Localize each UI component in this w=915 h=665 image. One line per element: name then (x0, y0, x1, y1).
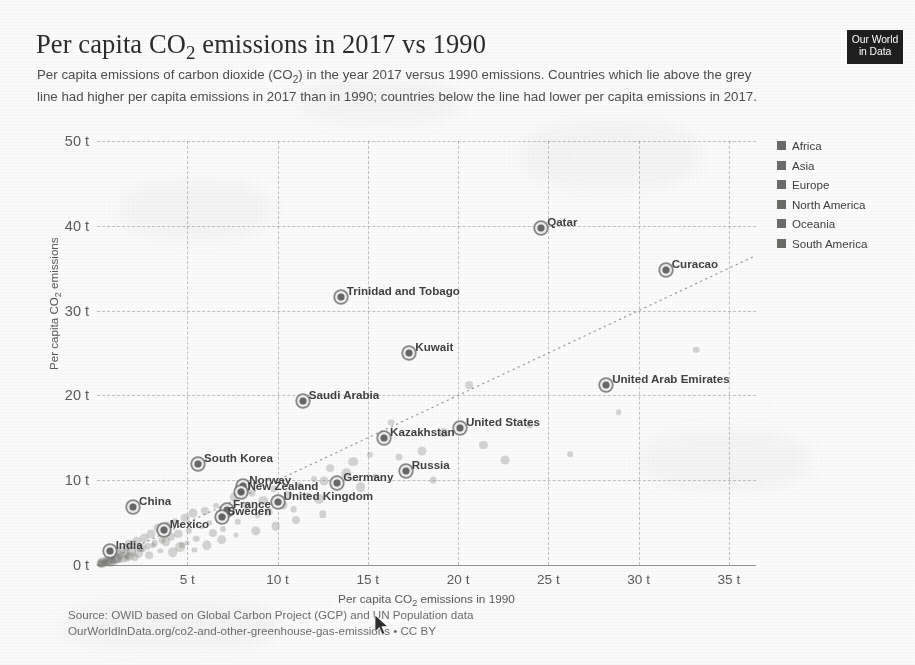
data-point[interactable] (567, 451, 573, 457)
data-point[interactable] (174, 529, 183, 538)
data-point-label: Curacao (672, 256, 718, 269)
data-point[interactable] (271, 522, 280, 531)
data-point[interactable] (126, 552, 135, 561)
legend: AfricaAsiaEuropeNorth AmericaOceaniaSout… (777, 139, 867, 257)
data-point-highlighted[interactable] (238, 489, 245, 496)
data-point[interactable] (465, 381, 473, 389)
data-point-label: Kazakhstan (390, 424, 454, 437)
legend-item[interactable]: South America (777, 237, 867, 250)
legend-item[interactable]: Africa (777, 139, 867, 152)
legend-item[interactable]: Oceania (777, 217, 867, 230)
data-point[interactable] (693, 346, 700, 353)
data-point-label: Russia (412, 457, 450, 470)
data-point-highlighted[interactable] (299, 398, 306, 405)
data-point[interactable] (220, 526, 226, 532)
data-point-highlighted[interactable] (218, 513, 225, 520)
logo-line-1: Our World (847, 34, 903, 46)
data-point-highlighted[interactable] (662, 266, 669, 273)
data-point[interactable] (417, 446, 426, 455)
legend-item-label: South America (792, 237, 867, 250)
scatter-plot-area: 0 t10 t20 t30 t40 t50 t5 t10 t15 t20 t25… (97, 141, 756, 565)
data-point-highlighted[interactable] (406, 350, 413, 357)
data-point-highlighted[interactable] (538, 225, 545, 232)
data-point[interactable] (192, 547, 197, 552)
data-point-highlighted[interactable] (381, 434, 388, 441)
x-axis-tick-label: 5 t (180, 572, 195, 587)
data-point[interactable] (290, 506, 297, 513)
data-point-highlighted[interactable] (337, 294, 344, 301)
chart-title: Per capita CO2 emissions in 2017 vs 1990 (36, 29, 486, 64)
data-point-highlighted[interactable] (334, 479, 341, 486)
x-axis-tick-label: 20 t (447, 572, 470, 587)
data-point[interactable] (175, 542, 185, 552)
y-axis-tick-label: 30 t (65, 303, 89, 319)
source-line: Source: OWID based on Global Carbon Proj… (68, 607, 473, 623)
legend-item[interactable]: Asia (777, 159, 867, 172)
y-gridline (97, 565, 756, 566)
data-point[interactable] (157, 548, 163, 554)
y-axis-tick-label: 20 t (65, 387, 89, 403)
license-line[interactable]: OurWorldInData.org/co2-and-other-greenho… (68, 623, 473, 639)
legend-item[interactable]: Europe (777, 178, 867, 191)
x-axis-tick-label: 15 t (356, 572, 379, 587)
data-point-label: United States (466, 414, 540, 427)
data-point[interactable] (235, 519, 241, 525)
data-point[interactable] (146, 551, 154, 559)
data-point-label: South Korea (204, 451, 273, 464)
data-point[interactable] (366, 452, 372, 458)
data-point[interactable] (213, 503, 219, 509)
data-point[interactable] (150, 543, 155, 548)
data-point[interactable] (319, 510, 327, 518)
data-point[interactable] (429, 477, 436, 484)
y-axis-label: Per capita CO2 emissions (47, 237, 63, 370)
chart-subtitle: Per capita emissions of carbon dioxide (… (37, 66, 765, 106)
legend-item[interactable]: North America (777, 198, 867, 211)
x-gridline (548, 141, 549, 565)
data-point[interactable] (193, 535, 200, 542)
legend-item-label: Oceania (792, 217, 835, 230)
data-point-label: Saudi Arabia (309, 388, 379, 401)
data-point[interactable] (233, 533, 238, 538)
data-point[interactable] (320, 477, 329, 486)
data-point-highlighted[interactable] (274, 499, 281, 506)
x-axis-tick-label: 25 t (537, 572, 560, 587)
data-point[interactable] (208, 529, 216, 537)
y-axis-tick-label: 50 t (65, 133, 89, 149)
data-point-label: Trinidad and Tobago (347, 284, 460, 297)
data-point[interactable] (251, 526, 260, 535)
y-gridline (97, 395, 756, 396)
data-point-highlighted[interactable] (603, 382, 610, 389)
data-point-highlighted[interactable] (456, 424, 463, 431)
data-point[interactable] (185, 540, 190, 545)
data-point-label: Sweden (228, 503, 272, 516)
data-point[interactable] (201, 507, 209, 515)
owid-logo[interactable]: Our World in Data (847, 30, 903, 64)
data-point-highlighted[interactable] (106, 547, 113, 554)
y-gridline (97, 311, 756, 312)
legend-item-label: Asia (792, 159, 815, 172)
data-point[interactable] (202, 541, 211, 550)
data-point[interactable] (395, 454, 402, 461)
data-point[interactable] (501, 455, 510, 464)
data-point[interactable] (147, 530, 156, 539)
y-gridline (97, 480, 756, 481)
x-axis-tick-label: 30 t (627, 572, 650, 587)
legend-swatch-icon (777, 239, 786, 248)
data-point-highlighted[interactable] (130, 504, 137, 511)
data-point[interactable] (349, 457, 359, 467)
data-point[interactable] (292, 516, 300, 524)
data-point-highlighted[interactable] (160, 527, 167, 534)
legend-swatch-icon (777, 180, 786, 189)
data-point-highlighted[interactable] (195, 461, 202, 468)
data-point-highlighted[interactable] (402, 467, 409, 474)
data-point[interactable] (161, 537, 170, 546)
legend-swatch-icon (777, 219, 786, 228)
data-point[interactable] (217, 535, 227, 545)
data-point[interactable] (616, 410, 622, 416)
x-axis-label: Per capita CO2 emissions in 1990 (97, 592, 756, 608)
data-point[interactable] (326, 464, 334, 472)
data-point[interactable] (479, 440, 487, 448)
data-point-label: China (139, 494, 171, 507)
data-point-label: Qatar (547, 215, 577, 228)
y-gridline (97, 141, 756, 142)
